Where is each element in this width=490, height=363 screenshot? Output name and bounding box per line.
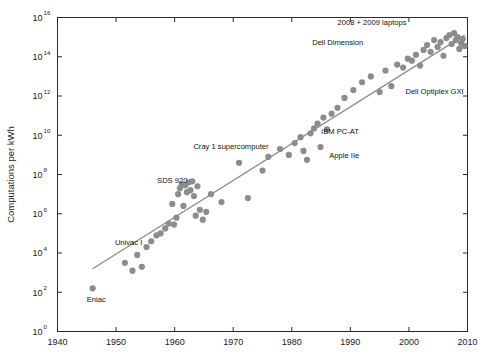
data-point xyxy=(265,154,271,160)
data-point xyxy=(304,157,310,163)
annotation-label: Eniac xyxy=(87,295,106,304)
y-axis-tick-label: 106 xyxy=(32,206,47,220)
y-axis-tick-label: 102 xyxy=(32,284,47,298)
data-point xyxy=(180,203,186,209)
data-point xyxy=(377,89,383,95)
y-tick-base: 10 xyxy=(32,131,42,141)
data-point xyxy=(197,207,203,213)
x-axis-tick-label: 1940 xyxy=(47,337,67,347)
annotation-label: Apple IIe xyxy=(329,151,359,160)
data-point xyxy=(129,268,135,274)
data-point xyxy=(300,148,306,154)
y-tick-base: 10 xyxy=(32,52,42,62)
y-tick-exponent: 4 xyxy=(44,245,48,252)
data-point xyxy=(90,285,96,291)
y-axis-tick-label: 1016 xyxy=(32,9,50,23)
data-point xyxy=(454,34,460,40)
x-axis-tick-label: 1980 xyxy=(282,337,302,347)
plot-frame xyxy=(58,18,468,332)
data-point xyxy=(148,238,154,244)
y-tick-base: 10 xyxy=(32,91,42,101)
data-point xyxy=(259,167,265,173)
data-point xyxy=(461,43,467,49)
data-point xyxy=(173,215,179,221)
y-tick-base: 10 xyxy=(32,170,42,180)
x-axis-tick-label: 1950 xyxy=(106,337,126,347)
y-tick-base: 10 xyxy=(32,13,42,23)
data-point xyxy=(409,58,415,64)
y-axis-tick-label: 100 xyxy=(32,323,47,337)
data-point xyxy=(413,52,419,58)
y-axis-tick-label: 104 xyxy=(32,245,47,259)
x-axis-tick-label: 2010 xyxy=(457,337,477,347)
data-point xyxy=(171,221,177,227)
data-point xyxy=(424,42,430,48)
annotation-label: Dell Dimension xyxy=(312,38,363,47)
data-point xyxy=(245,195,251,201)
y-axis-tick-label: 108 xyxy=(32,166,47,180)
data-point xyxy=(187,187,193,193)
trend-line xyxy=(93,35,465,269)
data-point xyxy=(194,183,200,189)
data-point xyxy=(382,67,388,73)
y-tick-base: 10 xyxy=(32,288,42,298)
data-point xyxy=(189,178,195,184)
data-point xyxy=(460,36,466,42)
data-point xyxy=(286,152,292,158)
annotation-label: Univac I xyxy=(115,238,142,247)
data-point xyxy=(208,191,214,197)
y-tick-exponent: 14 xyxy=(44,49,51,56)
scatter-plot-canvas: 1940195019601970198019902000201010010210… xyxy=(0,0,490,363)
data-point xyxy=(236,160,242,166)
chart-figure: 1940195019601970198019902000201010010210… xyxy=(0,0,490,363)
annotation-label: Cray 1 supercomputer xyxy=(193,142,269,151)
data-point xyxy=(134,252,140,258)
data-point xyxy=(157,230,163,236)
data-point xyxy=(203,209,209,215)
y-axis-tick-label: 1014 xyxy=(32,49,50,63)
data-point xyxy=(428,49,434,55)
y-tick-exponent: 16 xyxy=(44,9,51,16)
data-point xyxy=(122,260,128,266)
y-tick-base: 10 xyxy=(32,248,42,258)
x-axis-tick-label: 1960 xyxy=(165,337,185,347)
y-tick-exponent: 0 xyxy=(44,323,48,330)
y-tick-exponent: 6 xyxy=(44,206,48,213)
annotation-label: 2008 + 2009 laptops xyxy=(338,18,407,27)
y-tick-exponent: 2 xyxy=(44,284,48,291)
y-axis-title: Computations per kWh xyxy=(5,126,16,223)
x-axis-tick-label: 1970 xyxy=(223,337,243,347)
data-point xyxy=(350,87,356,93)
data-point xyxy=(368,73,374,79)
data-point xyxy=(400,64,406,70)
data-point xyxy=(297,134,303,140)
data-point xyxy=(139,264,145,270)
data-point xyxy=(314,120,320,126)
data-point xyxy=(359,79,365,85)
data-point xyxy=(200,217,206,223)
data-point xyxy=(334,105,340,111)
y-tick-exponent: 12 xyxy=(44,88,51,95)
data-point xyxy=(437,39,443,45)
y-tick-base: 10 xyxy=(32,327,42,337)
data-point xyxy=(193,213,199,219)
data-point xyxy=(277,146,283,152)
data-point xyxy=(388,83,394,89)
data-point xyxy=(440,53,446,59)
data-point xyxy=(329,111,335,117)
data-point xyxy=(394,62,400,68)
data-point xyxy=(169,201,175,207)
annotation-label: SDS 920 xyxy=(157,176,187,185)
x-axis-tick-label: 1990 xyxy=(340,337,360,347)
y-tick-exponent: 8 xyxy=(44,166,48,173)
data-point xyxy=(417,62,423,68)
data-point xyxy=(431,37,437,43)
y-axis-tick-label: 1012 xyxy=(32,88,50,102)
data-point xyxy=(456,46,462,52)
data-point xyxy=(166,220,172,226)
data-point xyxy=(320,114,326,120)
annotation-label: IBM PC-AT xyxy=(321,127,359,136)
data-point xyxy=(317,144,323,150)
data-point xyxy=(191,193,197,199)
annotation-label: Dell Optiplex GXI xyxy=(405,87,463,96)
